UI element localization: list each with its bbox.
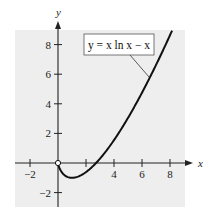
x-axis-arrow-icon bbox=[185, 160, 193, 166]
y-axis-label: y bbox=[55, 6, 61, 18]
equation-label: y = x ln x − x bbox=[88, 39, 150, 52]
y-axis-arrow-icon bbox=[55, 21, 61, 29]
y-tick-label: −2 bbox=[39, 187, 51, 199]
x-tick-label: 6 bbox=[139, 168, 145, 180]
x-tick-label: −2 bbox=[24, 168, 36, 180]
open-endpoint-marker bbox=[55, 160, 60, 165]
y-tick-label: 4 bbox=[46, 98, 52, 110]
y-tick-label: 6 bbox=[46, 68, 52, 80]
chart: −2468−22468 y = x ln x − x x y bbox=[0, 0, 211, 220]
x-axis-label: x bbox=[197, 157, 203, 169]
x-tick-label: 8 bbox=[167, 168, 173, 180]
x-tick-label: 4 bbox=[111, 168, 117, 180]
y-tick-label: 8 bbox=[46, 39, 52, 51]
y-tick-label: 2 bbox=[46, 127, 52, 139]
